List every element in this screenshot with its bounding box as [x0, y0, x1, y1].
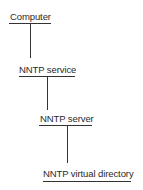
connector-computer-to-service — [30, 23, 31, 58]
node-nntp-service: NNTP service — [19, 64, 76, 75]
connector-service-to-server — [47, 76, 48, 110]
node-nntp-virtual-directory: NNTP virtual directory — [43, 168, 134, 179]
connector-server-to-virtual-directory — [67, 125, 68, 163]
underline-nntp-server — [39, 125, 92, 126]
node-nntp-server: NNTP server — [40, 113, 94, 124]
underline-nntp-virtual-directory — [43, 181, 131, 182]
node-computer: Computer — [10, 11, 51, 22]
